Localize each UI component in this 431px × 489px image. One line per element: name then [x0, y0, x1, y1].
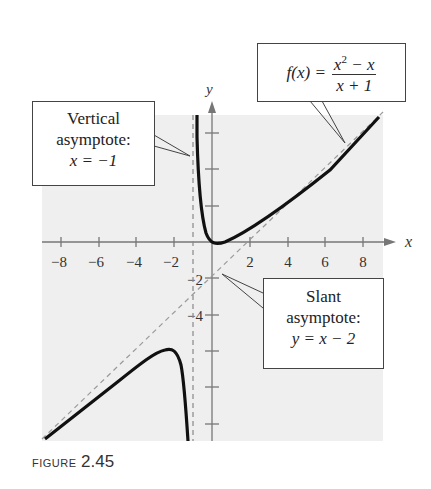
- function-lhs: f(x) =: [287, 62, 326, 83]
- y-axis-arrow-icon: [208, 101, 216, 113]
- fraction: x2 − x x + 1: [332, 49, 377, 97]
- caption-number: 2.45: [81, 452, 114, 471]
- x-axis-label: x: [404, 233, 412, 250]
- callout-equation: y = x − 2: [264, 328, 383, 349]
- svg-text:4: 4: [284, 254, 292, 270]
- svg-text:−6: −6: [88, 254, 104, 270]
- svg-text:−2: −2: [187, 272, 203, 288]
- numerator: x2 − x: [332, 49, 377, 76]
- callout-text: asymptote:: [33, 129, 154, 150]
- svg-text:−4: −4: [126, 254, 142, 270]
- num-rest: − x: [347, 54, 375, 73]
- vertical-asymptote-callout: Vertical asymptote: x = −1: [32, 101, 155, 186]
- figure-caption: FIGURE 2.45: [32, 452, 114, 472]
- svg-text:−8: −8: [51, 254, 67, 270]
- svg-text:6: 6: [321, 254, 329, 270]
- callout-text: Vertical: [33, 108, 154, 129]
- callout-text: Slant: [264, 286, 383, 307]
- x-axis-arrow-icon: [384, 238, 396, 246]
- svg-text:2: 2: [246, 254, 254, 270]
- denominator: x + 1: [336, 75, 372, 96]
- function-callout: f(x) = x2 − x x + 1: [257, 43, 406, 102]
- callout-text: asymptote:: [264, 307, 383, 328]
- callout-equation: x = −1: [33, 150, 154, 171]
- svg-text:−2: −2: [163, 254, 179, 270]
- y-axis-label: y: [204, 81, 213, 97]
- svg-text:8: 8: [359, 254, 367, 270]
- slant-asymptote-callout: Slant asymptote: y = x − 2: [263, 278, 384, 369]
- caption-word: FIGURE: [32, 457, 77, 469]
- svg-text:−4: −4: [187, 308, 203, 324]
